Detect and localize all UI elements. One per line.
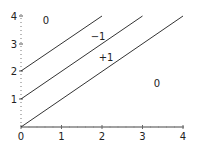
x-tick-label: 0 [18,131,24,142]
x-tick-label: 1 [58,131,64,142]
line-y-eq-x-plus-1 [21,16,143,99]
chart: 0 1 2 3 4 1 2 3 4 0 −1 +1 0 [0,0,198,143]
region-label-bottom: 0 [154,78,160,89]
x-tick-label: 4 [180,131,186,142]
region-label-plus-one: +1 [99,52,114,63]
y-tick-label: 3 [11,39,17,50]
region-label-minus-one: −1 [91,31,106,42]
y-tick-label: 4 [11,11,17,22]
y-tick-label: 2 [11,66,17,77]
y-tick-label: 1 [11,94,17,105]
x-tick-label: 3 [139,131,145,142]
x-tick-label: 2 [99,131,105,142]
region-label-top: 0 [43,15,49,26]
line-y-eq-x-plus-2 [21,16,102,71]
